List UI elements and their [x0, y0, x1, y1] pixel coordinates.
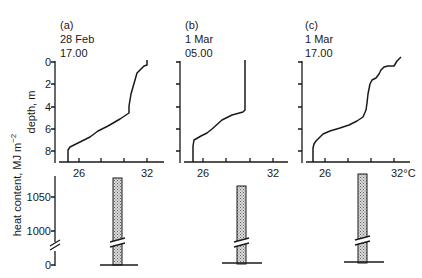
svg-text:2: 2: [45, 78, 51, 90]
panel-a-title: (a) 28 Feb 17.00: [60, 19, 94, 59]
svg-text:1 Mar: 1 Mar: [185, 33, 213, 45]
panel-c-axes: 26 32°C: [298, 61, 416, 179]
depth-tick-labels: 0 2 4 6 8: [45, 56, 51, 157]
svg-text:26: 26: [73, 167, 85, 179]
heat-bar-b: [222, 186, 262, 264]
svg-text:1 Mar: 1 Mar: [305, 33, 333, 45]
svg-text:(b): (b): [185, 19, 198, 31]
svg-text:4: 4: [45, 101, 51, 113]
svg-text:(c): (c): [305, 19, 318, 31]
svg-text:26: 26: [197, 167, 209, 179]
svg-text:0: 0: [45, 56, 51, 68]
figure: (a) 28 Feb 17.00 (b) 1 Mar 05.00 (c) 1 M…: [0, 0, 422, 278]
svg-text:05.00: 05.00: [185, 47, 213, 59]
svg-text:26: 26: [319, 167, 331, 179]
svg-text:32°C: 32°C: [391, 167, 416, 179]
svg-text:17.00: 17.00: [305, 47, 333, 59]
panel-c-profile: [313, 57, 401, 162]
svg-text:28 Feb: 28 Feb: [60, 33, 94, 45]
heat-bar-a: [100, 178, 138, 265]
svg-text:(a): (a): [60, 19, 73, 31]
heat-axis-title: heat content, MJ m−2: [9, 133, 23, 236]
heat-bar-c: [344, 174, 384, 263]
panel-c-title: (c) 1 Mar 17.00: [305, 19, 333, 59]
svg-text:32: 32: [141, 167, 153, 179]
panel-b-title: (b) 1 Mar 05.00: [185, 19, 213, 59]
svg-text:0: 0: [45, 259, 51, 271]
panel-b-profile: [193, 60, 245, 162]
svg-text:1000: 1000: [27, 225, 51, 237]
svg-text:17.00: 17.00: [60, 47, 88, 59]
svg-text:6: 6: [45, 123, 51, 135]
depth-axis-title: depth, m: [25, 91, 37, 134]
svg-text:8: 8: [45, 145, 51, 157]
heat-axis: 1050 1000 0: [27, 176, 60, 271]
svg-text:1050: 1050: [27, 191, 51, 203]
panel-a-profile: [68, 60, 147, 162]
svg-text:32: 32: [267, 167, 279, 179]
